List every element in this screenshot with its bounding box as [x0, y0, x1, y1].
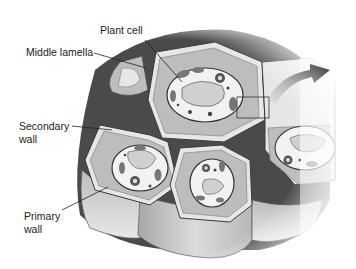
label-plant-cell: Plant cell	[100, 24, 143, 36]
label-secondary-wall-line1: Secondary	[19, 120, 69, 132]
plant-cell-diagram: Plant cell Middle lamella Secondary wall…	[0, 0, 356, 269]
label-secondary-wall-line2: wall	[19, 133, 37, 145]
label-primary-wall-line1: Primary	[24, 210, 60, 222]
label-primary-wall-line2: wall	[24, 223, 42, 235]
label-middle-lamella: Middle lamella	[26, 46, 93, 58]
diagram-illustration	[0, 0, 356, 269]
